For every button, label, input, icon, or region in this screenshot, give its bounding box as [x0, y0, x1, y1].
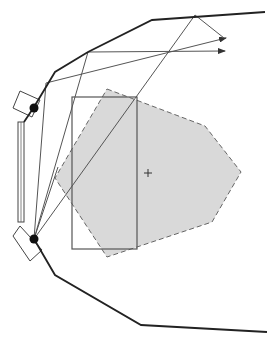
diagram-svg — [0, 0, 271, 341]
ray-3 — [34, 167, 58, 239]
light-sources — [30, 104, 39, 244]
lower-source-dot-icon — [30, 235, 39, 244]
upper-source-dot-icon — [30, 104, 39, 113]
diagram-canvas — [0, 0, 271, 341]
boundary-bottom — [34, 239, 267, 332]
